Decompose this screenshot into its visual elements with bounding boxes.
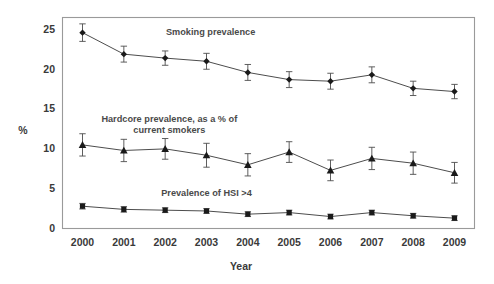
data-point-marker bbox=[121, 207, 126, 212]
line-chart: 0510152025 20002001200220032004200520062… bbox=[0, 0, 494, 284]
chart-figure: 0510152025 20002001200220032004200520062… bbox=[0, 0, 494, 284]
x-tick-label: 2004 bbox=[236, 236, 260, 248]
y-tick-label: 0 bbox=[49, 222, 55, 234]
x-tick-label: 2001 bbox=[112, 236, 136, 248]
data-point-marker bbox=[245, 212, 250, 217]
x-tick-label: 2002 bbox=[153, 236, 177, 248]
y-tick-label: 25 bbox=[43, 23, 55, 35]
y-tick-label: 10 bbox=[43, 142, 55, 154]
data-point-marker bbox=[204, 208, 209, 213]
data-point-marker bbox=[411, 213, 416, 218]
x-tick-label: 2008 bbox=[401, 236, 425, 248]
y-tick-label: 5 bbox=[49, 182, 55, 194]
series-annotation: Smoking prevalence bbox=[166, 27, 255, 37]
x-tick-label: 2009 bbox=[443, 236, 467, 248]
x-tick-label: 2000 bbox=[71, 236, 95, 248]
x-axis-title: Year bbox=[230, 260, 252, 272]
x-tick-label: 2006 bbox=[319, 236, 343, 248]
y-axis-title: % bbox=[18, 124, 28, 136]
y-tick-label: 15 bbox=[43, 102, 55, 114]
x-tick-label: 2005 bbox=[277, 236, 301, 248]
data-point-marker bbox=[163, 208, 168, 213]
y-tick-label: 20 bbox=[43, 63, 55, 75]
data-point-marker bbox=[452, 216, 457, 221]
data-point-marker bbox=[80, 204, 85, 209]
x-tick-label: 2003 bbox=[195, 236, 219, 248]
data-point-marker bbox=[369, 210, 374, 215]
series-annotation: Prevalence of HSI >4 bbox=[161, 188, 253, 198]
data-point-marker bbox=[328, 214, 333, 219]
x-tick-label: 2007 bbox=[360, 236, 384, 248]
data-point-marker bbox=[287, 210, 292, 215]
